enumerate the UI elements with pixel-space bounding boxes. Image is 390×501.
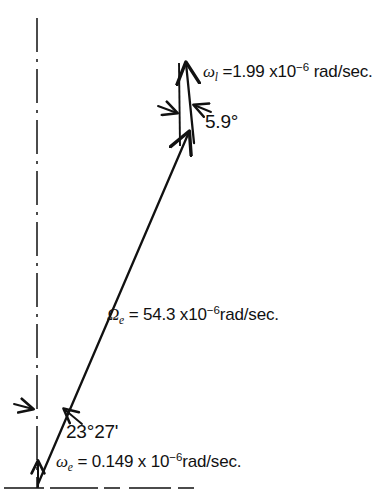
label-omega-local: ωl =1.99 x10−6 rad/sec. (203, 62, 373, 83)
omega-e-value: 0.149 (92, 452, 134, 471)
omega-earth-value: 54.3 (143, 305, 175, 324)
omega-earth-subscript: e (119, 314, 124, 327)
omega-local-vector (186, 63, 194, 143)
omega-earth-exponent: −6 (207, 304, 220, 316)
omega-local-value: 1.99 (232, 62, 264, 81)
vector-diagram: ωl =1.99 x10−6 rad/sec. 5.9° Ωe = 54.3 x… (0, 0, 390, 501)
omega-local-subscript: l (215, 71, 218, 84)
label-angle-local: 5.9° (205, 112, 238, 131)
label-omega-e: ωe = 0.149 x 10−6rad/sec. (56, 452, 241, 473)
omega-e-symbol: ω (56, 452, 68, 471)
omega-e-units: rad/sec. (182, 452, 241, 471)
omega-earth-equals: = (129, 305, 139, 324)
omega-earth-base: 10 (188, 305, 207, 324)
omega-e-base: 10 (151, 452, 170, 471)
omega-earth-symbol: Ω (107, 305, 119, 324)
omega-e-subscript: e (68, 461, 73, 474)
angle-59-indicator (158, 105, 211, 113)
omega-e-times: x (138, 452, 146, 471)
omega-earth-times: x (180, 305, 188, 324)
local-vertical-line (179, 63, 180, 146)
omega-e-equals: = (77, 452, 87, 471)
omega-local-base: 10 (277, 62, 296, 81)
omega-local-exponent: −6 (296, 61, 309, 73)
omega-earth-units: rad/sec. (220, 305, 279, 324)
omega-local-units: rad/sec. (314, 62, 373, 81)
omega-e-exponent: −6 (169, 451, 182, 463)
label-angle-earth: 23°27' (66, 422, 118, 441)
omega-local-equals: = (223, 62, 233, 81)
label-omega-earth: Ωe = 54.3 x10−6rad/sec. (107, 305, 279, 326)
omega-local-symbol: ω (203, 62, 215, 81)
